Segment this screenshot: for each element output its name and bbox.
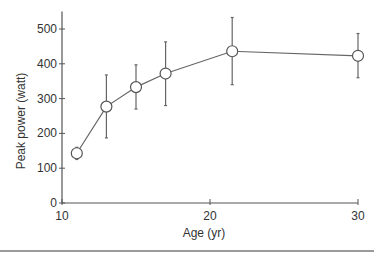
chart: 0100200300400500102030 Peak power (watt)…: [0, 0, 374, 255]
y-tick-label: 400: [37, 57, 57, 71]
data-point-marker: [227, 46, 238, 57]
data-series: [71, 18, 363, 160]
data-point-marker: [353, 50, 364, 61]
data-point-marker: [160, 68, 171, 79]
data-point-marker: [101, 101, 112, 112]
data-point-marker: [131, 82, 142, 93]
y-tick-label: 200: [37, 126, 57, 140]
y-axis-title: Peak power (watt): [14, 73, 28, 170]
y-tick-label: 300: [37, 92, 57, 106]
x-axis-title: Age (yr): [183, 226, 226, 240]
divider: [0, 250, 374, 252]
x-tick-label: 30: [351, 209, 365, 223]
data-point-marker: [71, 148, 82, 159]
x-tick-label: 10: [55, 209, 69, 223]
axes: 0100200300400500102030: [37, 12, 365, 223]
y-tick-label: 100: [37, 161, 57, 175]
y-tick-label: 500: [37, 22, 57, 36]
series-line: [77, 51, 358, 153]
y-tick-label: 0: [50, 196, 57, 210]
x-tick-label: 20: [203, 209, 217, 223]
